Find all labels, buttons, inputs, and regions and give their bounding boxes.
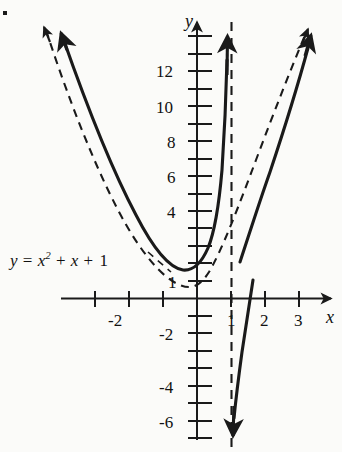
dashed-parabola-left-arrow bbox=[44, 27, 50, 42]
x-axis-label: x bbox=[326, 308, 334, 326]
dashed-parabola-curve bbox=[46, 30, 306, 287]
equation-label: y = x2 + x + 1 bbox=[10, 250, 109, 269]
x-tick-label-2: 2 bbox=[260, 312, 269, 329]
equation-term2: x bbox=[71, 251, 79, 270]
y-tick-label--6: -6 bbox=[159, 414, 173, 431]
solid-curve-down-arrow bbox=[233, 406, 234, 436]
dashed-parabola-right-arrow bbox=[302, 29, 308, 44]
x-tick-label-1: 1 bbox=[227, 312, 236, 329]
y-axis-label: y bbox=[185, 12, 193, 30]
y-tick-label-1: 1 bbox=[168, 274, 177, 291]
solid-curve-lower-branch bbox=[234, 280, 253, 418]
solid-curve-left-arrow bbox=[61, 33, 67, 50]
y-tick-label-10: 10 bbox=[156, 99, 173, 116]
x-tick-label--2: -2 bbox=[108, 312, 122, 329]
y-tick-label-8: 8 bbox=[167, 134, 176, 151]
y-tick-label--4: -4 bbox=[159, 379, 173, 396]
axes-group bbox=[61, 22, 331, 440]
equation-term3: 1 bbox=[98, 251, 109, 270]
y-tick-label-12: 12 bbox=[156, 63, 173, 80]
y-tick-marks bbox=[188, 36, 212, 438]
equation-lhs: y bbox=[10, 251, 18, 270]
solid-curve-left-branch bbox=[63, 38, 227, 270]
y-tick-label--2: -2 bbox=[159, 326, 173, 343]
y-tick-label-6: 6 bbox=[167, 169, 176, 186]
figure-canvas: y = x2 + x + 1 y x -2 1 2 3 1 4 6 8 10 1… bbox=[0, 0, 342, 452]
x-tick-label-3: 3 bbox=[294, 312, 303, 329]
equation-equals: = bbox=[22, 251, 34, 270]
solid-curve-asymptote-up-arrow bbox=[227, 36, 228, 75]
equation-plus-1: + bbox=[55, 251, 67, 270]
y-tick-label-4: 4 bbox=[167, 204, 176, 221]
equation-plus-2: + bbox=[83, 251, 95, 270]
equation-term1-exponent: 2 bbox=[45, 249, 51, 261]
solid-curve-right-branch bbox=[240, 48, 308, 262]
